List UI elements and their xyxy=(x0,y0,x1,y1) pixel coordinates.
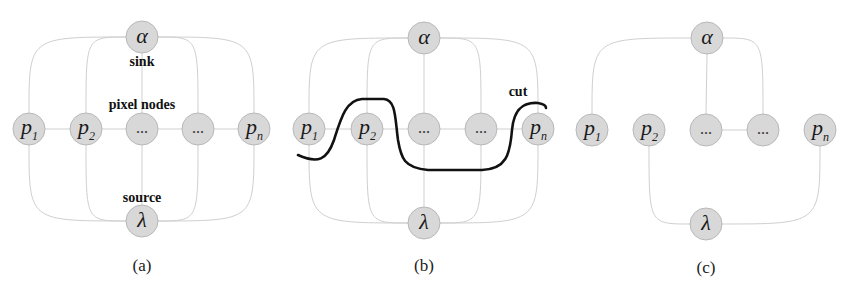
node-d1: ... xyxy=(126,113,158,145)
node-ellipsis-label: ... xyxy=(700,120,712,137)
node-label: p xyxy=(639,115,652,140)
node-label: p xyxy=(528,114,541,139)
node-label: p xyxy=(357,114,370,139)
source-label: source xyxy=(123,190,162,205)
node-d1: ... xyxy=(690,114,722,146)
node-pn: pn xyxy=(804,114,836,146)
node-p2: p2 xyxy=(70,113,102,145)
edge-alpha-pn xyxy=(440,38,538,113)
node-subscript: n xyxy=(257,129,263,143)
node-lambda: λ xyxy=(690,208,722,240)
node-p1: p1 xyxy=(293,113,325,145)
caption-b: (b) xyxy=(414,256,434,275)
edge-alpha-d1 xyxy=(706,54,707,114)
node-label: p xyxy=(76,114,89,139)
node-label: λ xyxy=(136,207,147,232)
sink-label: sink xyxy=(130,54,155,69)
node-p2: p2 xyxy=(633,114,665,146)
node-ellipsis-label: ... xyxy=(192,119,204,136)
node-ellipsis-label: ... xyxy=(418,119,430,136)
node-alpha: α xyxy=(691,22,723,54)
node-d2: ... xyxy=(747,114,779,146)
node-label: λ xyxy=(418,209,429,234)
node-alpha: α xyxy=(126,21,158,53)
edge-lambda-pn xyxy=(722,146,820,224)
node-lambda: λ xyxy=(126,205,158,237)
graph-cut-figure: αλp1p2......pn sink pixel nodes source (… xyxy=(0,0,849,287)
cut-label: cut xyxy=(509,84,528,99)
edge-lambda-p2 xyxy=(86,145,126,221)
node-p2: p2 xyxy=(351,113,383,145)
node-subscript: 2 xyxy=(89,129,95,143)
node-ellipsis-label: ... xyxy=(475,119,487,136)
caption-c: (c) xyxy=(697,258,716,277)
node-d2: ... xyxy=(182,113,214,145)
node-subscript: 1 xyxy=(32,129,38,143)
node-subscript: 1 xyxy=(595,130,601,144)
edge-lambda-p1 xyxy=(29,145,126,221)
node-label: α xyxy=(136,23,148,48)
edge-alpha-p1 xyxy=(309,38,408,113)
node-p1: p1 xyxy=(13,113,45,145)
node-d2: ... xyxy=(465,113,497,145)
node-ellipsis-label: ... xyxy=(757,120,769,137)
node-label: p xyxy=(582,115,595,140)
node-label: p xyxy=(810,115,823,140)
node-label: p xyxy=(299,114,312,139)
pixel-nodes-label: pixel nodes xyxy=(109,97,176,112)
panel-c: αλp1p2......pn (c) xyxy=(576,22,836,277)
edge-alpha-p1 xyxy=(592,38,691,114)
node-alpha: α xyxy=(408,22,440,54)
node-label: p xyxy=(244,114,257,139)
node-label: λ xyxy=(700,210,711,235)
edge-alpha-p2 xyxy=(367,38,408,113)
node-subscript: 2 xyxy=(652,130,658,144)
node-label: p xyxy=(19,114,32,139)
caption-a: (a) xyxy=(133,256,152,275)
node-lambda: λ xyxy=(408,207,440,239)
edge-lambda-p2 xyxy=(649,146,690,224)
edge-alpha-d2 xyxy=(440,38,481,113)
node-label: α xyxy=(418,24,430,49)
node-subscript: n xyxy=(823,130,829,144)
node-subscript: 2 xyxy=(370,129,376,143)
node-pn: pn xyxy=(522,113,554,145)
node-subscript: n xyxy=(541,129,547,143)
edge-lambda-pn xyxy=(440,145,538,223)
node-subscript: 1 xyxy=(312,129,318,143)
node-d1: ... xyxy=(408,113,440,145)
node-label: α xyxy=(701,24,713,49)
edge-lambda-pn xyxy=(158,145,254,221)
node-pn: pn xyxy=(238,113,270,145)
panel-c-nodes: αλp1p2......pn xyxy=(576,22,836,240)
node-p1: p1 xyxy=(576,114,608,146)
panel-a: αλp1p2......pn sink pixel nodes source (… xyxy=(13,21,270,275)
edge-lambda-d2 xyxy=(440,145,481,223)
node-ellipsis-label: ... xyxy=(136,119,148,136)
edge-alpha-d2 xyxy=(723,38,763,114)
panel-b: αλp1p2......pn cut (b) xyxy=(293,22,554,275)
edge-lambda-d2 xyxy=(158,145,198,221)
